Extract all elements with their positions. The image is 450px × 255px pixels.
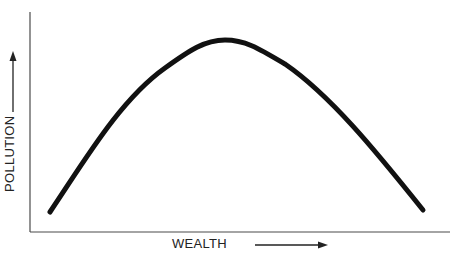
y-axis-label: POLLUTION xyxy=(2,72,22,192)
x-arrow-icon xyxy=(255,242,328,249)
chart-canvas xyxy=(0,0,450,255)
pollution-wealth-curve xyxy=(50,40,423,212)
x-axis-label: WEALTH xyxy=(172,236,227,251)
